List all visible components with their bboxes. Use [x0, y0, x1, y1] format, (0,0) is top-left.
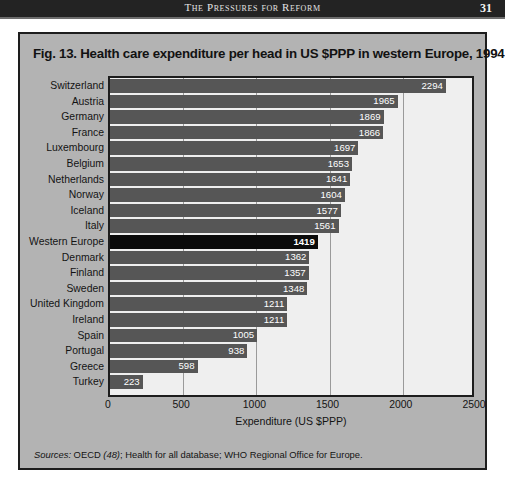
bar-row: 1357	[110, 265, 472, 281]
category-label: Western Europe	[20, 234, 104, 250]
bar-value-label: 1965	[373, 97, 394, 107]
running-head-title: The Pressures for Reform	[0, 1, 505, 13]
category-label: Denmark	[20, 250, 104, 266]
bar-value-label: 1641	[326, 175, 347, 185]
bar-value-label: 1211	[264, 299, 285, 309]
bar-row: 223	[110, 374, 472, 390]
bar: 1604	[110, 188, 345, 202]
bar-row: 1211	[110, 312, 472, 328]
bar-value-label: 1866	[359, 128, 380, 138]
source-reference: (48)	[103, 449, 120, 460]
category-label: Belgium	[20, 156, 104, 172]
bar: 1965	[110, 95, 398, 109]
bar-row: 1005	[110, 328, 472, 344]
bar-row: 1419	[110, 234, 472, 250]
bar: 598	[110, 360, 198, 374]
category-label: Germany	[20, 109, 104, 125]
bar-row: 1348	[110, 281, 472, 297]
category-label: France	[20, 125, 104, 141]
bar-value-label: 1577	[317, 206, 338, 216]
plot-wrapper: 2294196518691866169716531641160415771561…	[108, 76, 474, 397]
bar-value-label: 1561	[314, 221, 335, 231]
category-label: Portugal	[20, 343, 104, 359]
x-tick-label: 2500	[462, 399, 485, 410]
category-label: Iceland	[20, 203, 104, 219]
bar-row: 1641	[110, 172, 472, 188]
category-label: Norway	[20, 187, 104, 203]
category-label: Switzerland	[20, 78, 104, 94]
bar-value-label: 1362	[285, 253, 306, 263]
bar-value-label: 1604	[320, 190, 341, 200]
x-tick-label: 1500	[316, 399, 339, 410]
x-axis-ticks: 05001000150020002500	[108, 399, 474, 413]
category-label: Ireland	[20, 312, 104, 328]
bar: 1211	[110, 313, 287, 327]
bar-row: 1697	[110, 140, 472, 156]
bar-value-label: 2294	[421, 81, 442, 91]
bar-value-label: 1005	[233, 331, 254, 341]
bar-row: 2294	[110, 78, 472, 94]
bar-value-label: 1419	[293, 237, 314, 247]
bar-value-label: 1653	[328, 159, 349, 169]
bar-value-label: 1348	[283, 284, 304, 294]
bar: 223	[110, 375, 143, 389]
source-text: OECD	[71, 449, 103, 460]
bar-row: 1604	[110, 187, 472, 203]
bar: 1866	[110, 126, 383, 140]
bar-value-label: 1211	[264, 315, 285, 325]
bar-rows: 2294196518691866169716531641160415771561…	[110, 78, 472, 395]
bar: 1348	[110, 282, 307, 296]
bar-row: 1965	[110, 94, 472, 110]
bar: 1653	[110, 157, 352, 171]
bar: 2294	[110, 79, 446, 93]
x-tick-label: 2000	[389, 399, 412, 410]
category-label: Turkey	[20, 374, 104, 390]
page-number: 31	[480, 1, 492, 16]
bar-row: 1577	[110, 203, 472, 219]
category-label: Austria	[20, 94, 104, 110]
bar: 1577	[110, 204, 341, 218]
figure-source-note: Sources: OECD (48); Health for all datab…	[34, 449, 363, 460]
category-label: Sweden	[20, 281, 104, 297]
bar: 938	[110, 344, 247, 358]
bar-row: 598	[110, 359, 472, 375]
category-label: Finland	[20, 265, 104, 281]
category-label: Spain	[20, 328, 104, 344]
bar: 1211	[110, 297, 287, 311]
bar-row: 1653	[110, 156, 472, 172]
category-label: Luxembourg	[20, 140, 104, 156]
category-label: Italy	[20, 218, 104, 234]
bar-value-label: 598	[179, 362, 195, 372]
bar: 1561	[110, 219, 339, 233]
bar: 1697	[110, 141, 358, 155]
header-rule	[0, 17, 505, 19]
x-tick-label: 0	[105, 399, 111, 410]
bar-value-label: 938	[228, 346, 244, 356]
bar-row: 1866	[110, 125, 472, 141]
bar: 1641	[110, 173, 350, 187]
category-label: Netherlands	[20, 172, 104, 188]
bar-value-label: 1869	[359, 112, 380, 122]
bar: 1005	[110, 329, 257, 343]
bar-value-label: 1697	[334, 143, 355, 153]
figure-title: Fig. 13. Health care expenditure per hea…	[33, 46, 504, 61]
category-label: United Kingdom	[20, 296, 104, 312]
category-axis-labels: SwitzerlandAustriaGermanyFranceLuxembour…	[20, 78, 104, 390]
bar-row: 1362	[110, 250, 472, 266]
bar: 1869	[110, 110, 384, 124]
bar-row: 1869	[110, 109, 472, 125]
plot-area: 2294196518691866169716531641160415771561…	[108, 76, 474, 397]
x-tick-label: 500	[173, 399, 190, 410]
source-label: Sources:	[34, 449, 71, 460]
bar-value-label: 1357	[284, 268, 305, 278]
source-rest: ; Health for all database; WHO Regional …	[120, 449, 363, 460]
x-tick-label: 1000	[243, 399, 266, 410]
bar: 1419	[110, 235, 318, 249]
x-axis-label: Expenditure (US $PPP)	[108, 415, 474, 427]
bar-row: 938	[110, 343, 472, 359]
category-label: Greece	[20, 359, 104, 375]
bar: 1357	[110, 266, 309, 280]
bar: 1362	[110, 251, 309, 265]
figure-container: Fig. 13. Health care expenditure per hea…	[18, 32, 487, 470]
page-running-header: The Pressures for Reform 31	[0, 0, 505, 19]
